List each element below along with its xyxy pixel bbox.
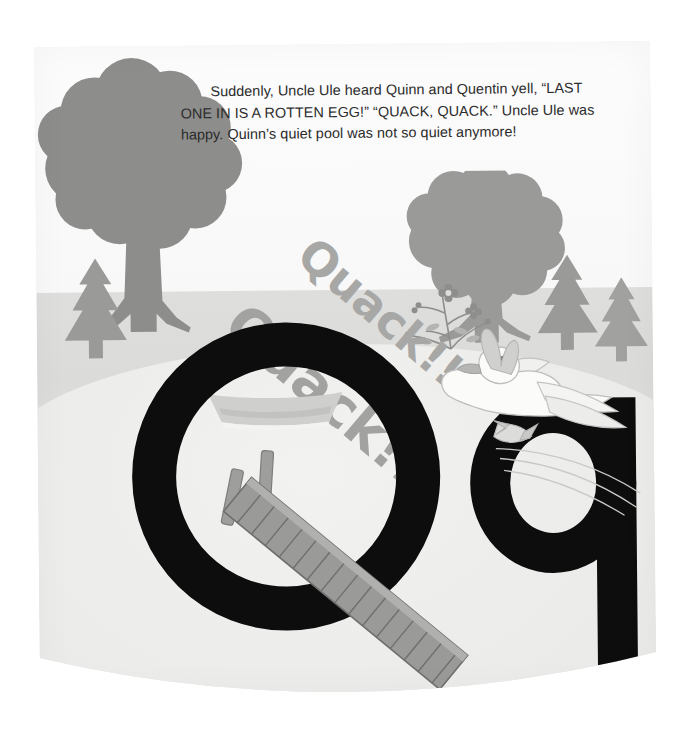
book-page-screenshot: Quack!! Quack!! bbox=[0, 0, 694, 740]
illustration-scene: Quack!! Quack!! bbox=[34, 41, 656, 695]
paper-sheet: Quack!! Quack!! bbox=[34, 41, 656, 695]
story-paragraph: Suddenly, Uncle Ule heard Quinn and Quen… bbox=[180, 78, 601, 146]
paper-sheet-wrapper: Quack!! Quack!! bbox=[0, 0, 694, 740]
